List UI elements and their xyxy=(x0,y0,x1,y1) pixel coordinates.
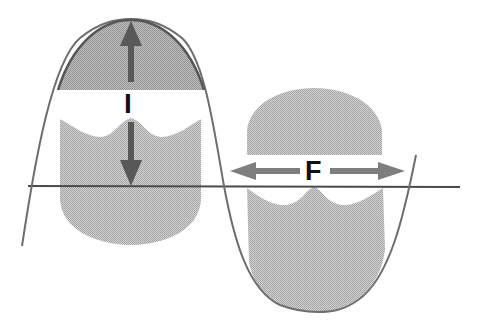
waveform-diagram xyxy=(0,0,483,326)
label-f: F xyxy=(305,158,322,185)
label-i: I xyxy=(124,90,132,118)
right-lobe-top-dome xyxy=(247,88,382,155)
baseline xyxy=(28,186,460,187)
right-lobe-body xyxy=(247,187,385,312)
